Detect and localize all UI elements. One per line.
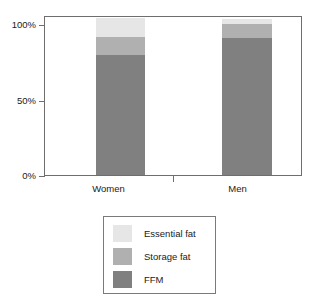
x-tick-label-women: Women xyxy=(44,183,173,194)
bar-women-segment-essential-fat[interactable] xyxy=(96,18,145,37)
bar-women-segment-ffm[interactable] xyxy=(96,55,145,175)
bar-men-segment-storage-fat[interactable] xyxy=(222,24,272,38)
y-tick-label-100: 100% xyxy=(2,20,36,30)
y-tick-label-0: 0% xyxy=(2,171,36,181)
legend-item-storage-fat[interactable]: Storage fat xyxy=(113,247,190,265)
legend-item-essential-fat[interactable]: Essential fat xyxy=(113,224,196,242)
bar-women[interactable] xyxy=(96,18,145,175)
x-tick-label-men: Men xyxy=(173,183,302,194)
legend-label-ffm: FFM xyxy=(144,274,164,285)
stacked-bar-chart: 100% 50% 0% Women Men xyxy=(0,0,318,301)
legend-item-ffm[interactable]: FFM xyxy=(113,270,164,288)
plot-inner xyxy=(45,17,301,175)
bar-men[interactable] xyxy=(222,19,272,175)
y-tick-mark-0 xyxy=(39,176,45,177)
bar-men-segment-ffm[interactable] xyxy=(222,38,272,175)
y-tick-label-50: 50% xyxy=(2,96,36,106)
x-tick-mark-divider xyxy=(173,176,174,182)
legend-label-essential-fat: Essential fat xyxy=(144,228,196,239)
legend-label-storage-fat: Storage fat xyxy=(144,251,190,262)
bar-women-segment-storage-fat[interactable] xyxy=(96,37,145,55)
legend-swatch-essential-fat xyxy=(113,225,132,242)
bar-men-segment-essential-fat[interactable] xyxy=(222,19,272,24)
legend: Essential fat Storage fat FFM xyxy=(103,216,216,294)
legend-swatch-ffm xyxy=(113,271,132,288)
legend-swatch-storage-fat xyxy=(113,248,132,265)
plot-area xyxy=(44,16,302,176)
